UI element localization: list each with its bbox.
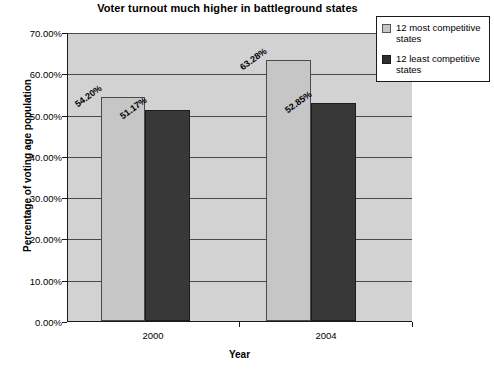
y-tick-label: 0.00% [2,317,62,328]
y-tick-label: 20.00% [2,234,62,245]
chart-title: Voter turnout much higher in battlegroun… [0,2,455,14]
legend-label: 12 most competitive states [396,22,485,44]
y-tick-label: 40.00% [2,151,62,162]
x-axis-title: Year [67,349,412,360]
bar-chart: Voter turnout much higher in battlegroun… [0,0,494,369]
legend-item-least-competitive[interactable]: 12 least competitive states [382,53,485,75]
legend-label: 12 least competitive states [396,53,485,75]
x-tick-label-2004: 2004 [286,330,366,341]
gridline [68,74,412,75]
bar-2004-least[interactable] [311,103,356,321]
bar-2000-least[interactable] [145,110,190,321]
y-tick-mark [62,322,67,323]
plot-area [67,33,412,322]
x-tick-mark [239,322,240,327]
y-tick-label: 30.00% [2,193,62,204]
x-tick-mark [412,322,413,327]
legend-swatch-icon [382,55,391,64]
x-tick-label-2000: 2000 [113,330,193,341]
y-tick-label: 50.00% [2,110,62,121]
legend-swatch-icon [382,24,391,33]
y-tick-label: 10.00% [2,275,62,286]
y-tick-label: 70.00% [2,28,62,39]
y-tick-label: 60.00% [2,69,62,80]
chart-legend: 12 most competitive states 12 least comp… [376,16,490,82]
bar-2000-most[interactable] [101,97,145,321]
legend-item-most-competitive[interactable]: 12 most competitive states [382,22,485,44]
gridline [68,33,412,34]
